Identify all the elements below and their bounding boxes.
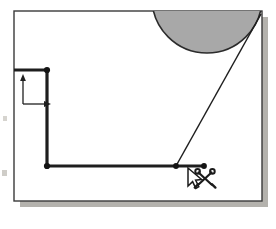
drawing-surface[interactable] [0,0,276,229]
vertex-dot[interactable] [173,163,179,169]
screenshot-root [0,0,276,229]
scan-artifacts [2,116,7,176]
vertex-dot[interactable] [44,163,50,169]
endpoint-dot[interactable] [201,163,207,169]
vertex-dot[interactable] [44,67,50,73]
